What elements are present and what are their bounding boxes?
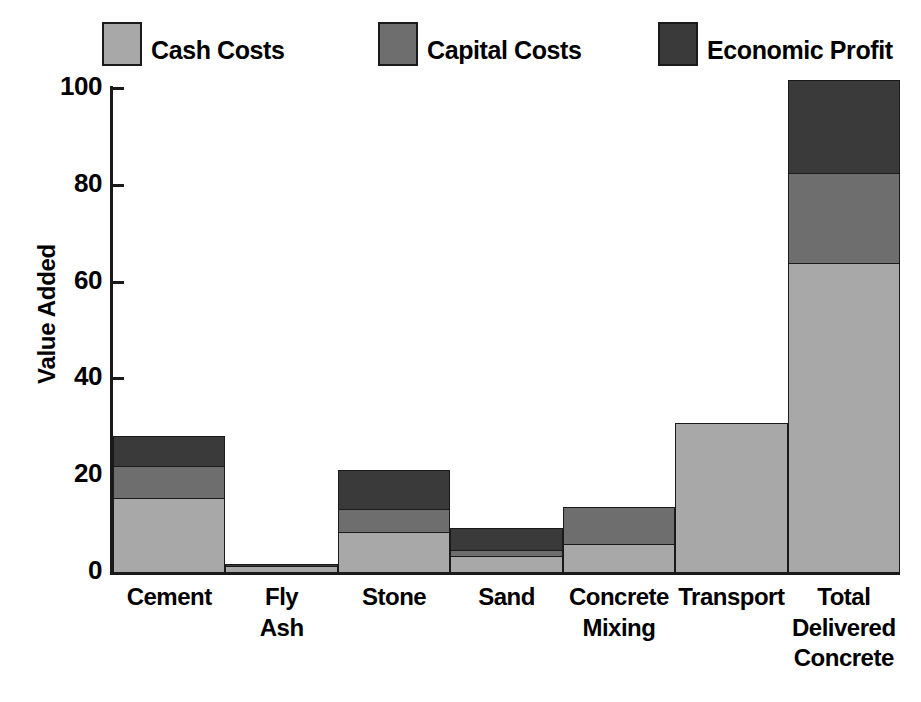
bar-segment [675,423,787,573]
bar-column[interactable] [450,528,562,573]
y-tick-label-80: 80 [6,170,102,196]
x-axis-label-line: Ash [213,613,349,644]
bar-segment [338,532,450,573]
y-tick-label-40: 40 [6,363,102,389]
bar-column[interactable] [338,470,450,573]
bar-segment [450,528,562,552]
x-axis-label-line: Mixing [551,613,687,644]
plot-area: Value Added 100806040200 CementFlyAshSto… [0,0,921,702]
stacked-bar-chart: Cash Costs Capital Costs Economic Profit… [0,0,921,702]
bar-column[interactable] [113,436,225,573]
bar-segment [113,436,225,467]
bar-segment [788,80,900,174]
bar-segment [450,556,562,573]
x-axis-label-line: Total [776,582,912,613]
bar-segment [338,470,450,511]
y-tick-label-60: 60 [6,267,102,293]
bar-segment [113,498,225,573]
bars-container [113,86,900,573]
bar-column[interactable] [563,507,675,573]
y-tick-label-0: 0 [6,557,102,583]
x-axis-label-line: Delivered [776,613,912,644]
bar-segment [225,566,337,573]
bar-segment [338,509,450,533]
bar-column[interactable] [225,564,337,573]
bar-segment [563,507,675,546]
x-axis-label: TotalDeliveredConcrete [776,582,912,674]
bar-column[interactable] [788,80,900,573]
y-tick-label-20: 20 [6,460,102,486]
bar-segment [563,544,675,573]
bar-segment [788,173,900,265]
bar-segment [113,466,225,500]
x-axis-labels: CementFlyAshStoneSandConcreteMixingTrans… [113,582,900,700]
x-axis-label-line: Concrete [776,643,912,674]
bar-column[interactable] [675,423,787,573]
bar-segment [788,263,900,573]
y-tick-label-100: 100 [6,73,102,99]
